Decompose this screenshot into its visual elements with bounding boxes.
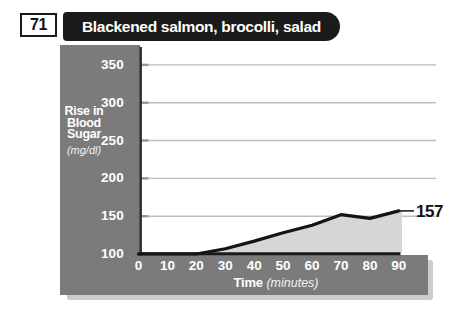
y-tick-label: 350 (60, 56, 132, 74)
gi-value-box: 71 (20, 13, 57, 37)
meal-title: Blackened salmon, brocolli, salad (82, 18, 321, 36)
x-tick-label: 40 (240, 258, 268, 274)
y-tick-label: 250 (60, 132, 132, 150)
x-tick-label: 90 (385, 258, 413, 274)
x-axis-title-unit: (minutes) (266, 276, 318, 290)
x-tick-label: 50 (269, 258, 297, 274)
x-tick-label: 70 (327, 258, 355, 274)
y-tick-label: 200 (60, 169, 132, 187)
y-tick-label: 150 (60, 207, 132, 225)
x-tick-label: 10 (153, 258, 181, 274)
plot-area (140, 45, 440, 255)
band-shadow-right (428, 260, 433, 298)
gi-value: 71 (30, 16, 47, 34)
y-tick-label: 300 (60, 94, 132, 112)
x-tick-label: 80 (356, 258, 384, 274)
meal-title-banner: Blackened salmon, brocolli, salad (63, 12, 340, 41)
x-tick-label: 0 (125, 258, 153, 274)
curve-end-value-label: 157 (416, 202, 443, 222)
page: 71 Blackened salmon, brocolli, salad Ris… (0, 0, 450, 312)
y-tick-label: 100 (60, 245, 132, 263)
x-axis-title-text: Time (233, 275, 262, 290)
x-tick-label: 20 (182, 258, 210, 274)
x-axis-title: Time (minutes) (140, 275, 412, 290)
x-tick-label: 60 (298, 258, 326, 274)
band-shadow-bottom (67, 295, 433, 300)
x-tick-label: 30 (211, 258, 239, 274)
